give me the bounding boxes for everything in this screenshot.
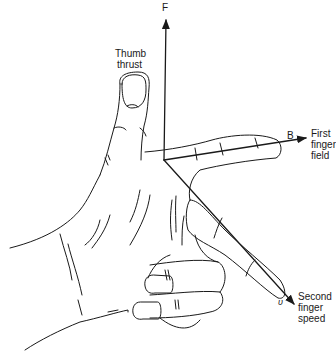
second-finger-label-line2: finger	[298, 302, 323, 313]
thumb-label-line2: thrust	[117, 59, 142, 70]
speed-axis-arrow	[164, 160, 294, 304]
second-finger-label-line1: Second	[298, 291, 332, 302]
thumb-outline	[100, 72, 149, 175]
force-axis-arrow	[164, 20, 166, 160]
first-finger-label-line2: finger	[311, 139, 336, 150]
curled-fingers-outline	[133, 235, 225, 328]
speed-symbol-label: υ	[278, 297, 283, 308]
first-finger-label-line3: field	[311, 150, 329, 161]
first-finger-label-line1: First	[311, 128, 330, 139]
field-symbol-label: B	[287, 130, 294, 141]
palm-outline	[10, 175, 184, 350]
field-axis-arrow	[164, 138, 306, 160]
hand-diagram	[0, 0, 336, 357]
second-finger-label-line3: speed	[298, 313, 325, 324]
thumb-label-line1: Thumb	[115, 48, 146, 59]
force-symbol-label: F	[162, 2, 168, 13]
